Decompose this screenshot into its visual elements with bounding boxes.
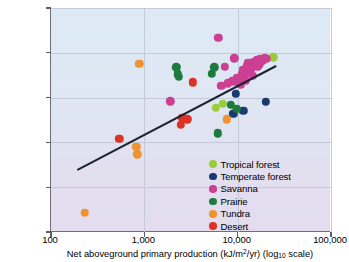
chart-legend: Tropical forestTemperate forestSavannaPr… bbox=[209, 158, 291, 232]
x-tick-label: 100,000 bbox=[313, 234, 347, 245]
data-point bbox=[262, 98, 270, 106]
data-point bbox=[214, 34, 222, 42]
y-tick bbox=[46, 97, 51, 98]
x-axis-title: Net aboveground primary production (kJ/m… bbox=[50, 248, 330, 259]
legend-label: Tundra bbox=[221, 208, 250, 219]
chart-figure: Herbivore biomass (kJ/m2) (log10 scale) … bbox=[0, 0, 349, 262]
y-tick bbox=[46, 187, 51, 188]
x-tick-label: 1,000 bbox=[132, 234, 155, 245]
y-tick bbox=[46, 142, 51, 143]
legend-label: Desert bbox=[221, 221, 249, 232]
legend-swatch-icon bbox=[209, 222, 217, 230]
legend-label: Savanna bbox=[221, 183, 258, 194]
gridline-horizontal bbox=[51, 8, 331, 9]
x-tick-label: 10,000 bbox=[222, 234, 250, 245]
x-axis-title-sub: 10 bbox=[278, 252, 285, 259]
gridline-vertical bbox=[331, 8, 332, 232]
data-point bbox=[183, 115, 191, 123]
data-point bbox=[263, 54, 271, 62]
legend-swatch-icon bbox=[209, 160, 217, 168]
legend-swatch-icon bbox=[209, 185, 217, 193]
data-point bbox=[135, 60, 143, 68]
data-point bbox=[221, 63, 229, 71]
data-point bbox=[166, 97, 174, 105]
data-point bbox=[254, 63, 262, 71]
x-tick-label: 100 bbox=[42, 234, 58, 245]
x-axis-title-pre: Net aboveground primary production (kJ/m bbox=[67, 249, 243, 259]
data-point bbox=[81, 208, 89, 216]
x-axis-title-mid: /yr) (log bbox=[247, 249, 279, 259]
data-point bbox=[189, 78, 197, 86]
gridline-horizontal bbox=[51, 53, 331, 54]
data-point bbox=[213, 129, 221, 137]
plot-area: Tropical forestTemperate forestSavannaPr… bbox=[50, 8, 330, 232]
gridline-vertical bbox=[144, 8, 145, 232]
data-point bbox=[222, 115, 230, 123]
gridline-horizontal bbox=[51, 142, 331, 143]
legend-swatch-icon bbox=[209, 198, 217, 206]
gridline-horizontal bbox=[51, 98, 331, 99]
legend-item-tundra[interactable]: Tundra bbox=[209, 208, 291, 220]
data-point bbox=[175, 73, 183, 81]
y-axis-title: Herbivore biomass (kJ/m2) (log10 scale) bbox=[0, 8, 3, 232]
legend-swatch-icon bbox=[209, 173, 217, 181]
legend-item-savanna[interactable]: Savanna bbox=[209, 183, 291, 195]
data-point bbox=[223, 79, 231, 87]
legend-swatch-icon bbox=[209, 210, 217, 218]
legend-item-temperate-forest[interactable]: Temperate forest bbox=[209, 170, 291, 182]
legend-label: Tropical forest bbox=[221, 159, 280, 170]
y-tick bbox=[46, 52, 51, 53]
legend-item-desert[interactable]: Desert bbox=[209, 220, 291, 232]
data-point bbox=[210, 63, 218, 71]
legend-label: Temperate forest bbox=[221, 171, 291, 182]
data-point bbox=[133, 150, 141, 158]
data-point bbox=[218, 100, 226, 108]
legend-label: Prairie bbox=[221, 196, 248, 207]
y-tick bbox=[46, 7, 51, 8]
legend-item-prairie[interactable]: Prairie bbox=[209, 195, 291, 207]
legend-item-tropical-forest[interactable]: Tropical forest bbox=[209, 158, 291, 170]
x-axis-title-post: scale) bbox=[286, 249, 313, 259]
